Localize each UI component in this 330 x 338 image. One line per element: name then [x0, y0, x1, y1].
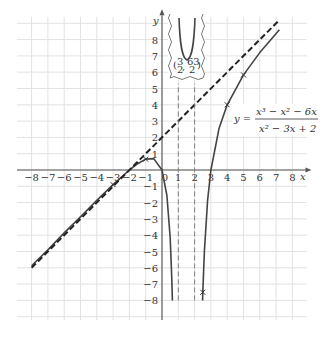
y-tick-label: 7 [152, 51, 158, 62]
inset-comma: , [182, 61, 185, 72]
y-axis-arrow-icon [160, 9, 165, 15]
y-tick-label: −4 [143, 230, 158, 241]
y-tick-label: 5 [152, 84, 158, 95]
equation-denominator: x² − 3x + 2 [259, 123, 317, 134]
inset-broken-axis: ( 3 2 , 63 2 ) [168, 14, 205, 80]
y-tick-label: 8 [152, 35, 158, 46]
x-tick-label: −7 [41, 172, 56, 183]
x-tick-label: 5 [240, 172, 246, 183]
y-tick-label: 3 [152, 116, 158, 127]
x-tick-label: 7 [273, 172, 279, 183]
y-tick-label: 4 [152, 100, 158, 111]
x-tick-label: −5 [73, 172, 88, 183]
y-tick-label: −8 [143, 295, 158, 306]
x-axis-arrow-icon [305, 168, 311, 173]
y-tick-label: 6 [152, 67, 158, 78]
y-tick-label: −2 [143, 198, 158, 209]
inset-y-den: 2 [189, 64, 195, 75]
y-tick-label: −3 [143, 214, 158, 225]
inset-point-label-close: ) [197, 59, 201, 70]
curves [32, 22, 280, 301]
y-tick-label: 2 [152, 132, 158, 143]
y-tick-label: −5 [143, 247, 158, 258]
x-tick-label: −8 [24, 172, 39, 183]
x-tick-label: −4 [89, 172, 104, 183]
y-axis-label: y [152, 15, 159, 26]
y-tick-label: −7 [143, 279, 158, 290]
x-axis-label: x [300, 171, 306, 182]
x-tick-label: −6 [57, 172, 72, 183]
function-curve [203, 30, 280, 301]
equation-label: y = x³ − x² − 6x x² − 3x + 2 [232, 104, 328, 136]
x-tick-label: 4 [224, 172, 230, 183]
y-tick-label: −1 [143, 181, 158, 192]
equation-lhs: y = [233, 113, 251, 124]
equation-numerator: x³ − x² − 6x [256, 106, 317, 117]
function-graph: −8−7−6−5−4−3−2−101234567887654321−1−2−3−… [0, 0, 330, 338]
x-tick-label: 8 [289, 172, 295, 183]
x-tick-label: 6 [257, 172, 263, 183]
y-tick-label: −6 [143, 263, 158, 274]
